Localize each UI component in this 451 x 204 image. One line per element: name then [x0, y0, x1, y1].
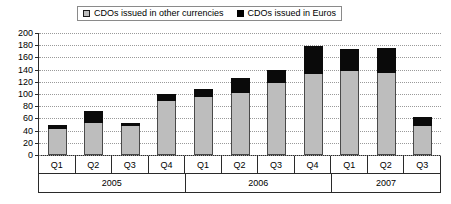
y-axis-tick-label: 160 — [18, 53, 33, 62]
legend-entry: CDOs issued in Euros — [237, 9, 337, 18]
bar-slot — [76, 33, 113, 155]
bar-segment-other-currencies — [157, 101, 176, 155]
bar-segment-other-currencies — [121, 126, 140, 155]
black-square-icon — [237, 10, 244, 17]
year-axis-labels: 200520062007 — [38, 174, 441, 193]
stacked-bar[interactable] — [84, 111, 103, 155]
bar-slot — [149, 33, 186, 155]
stacked-bar[interactable] — [48, 125, 67, 156]
bar-segment-other-currencies — [304, 74, 323, 155]
stacked-bar[interactable] — [121, 123, 140, 155]
year-label: 2006 — [185, 174, 332, 193]
quarter-label: Q3 — [257, 156, 294, 173]
bar-slot — [185, 33, 222, 155]
bar-slot — [295, 33, 332, 155]
quarter-label: Q3 — [111, 156, 148, 173]
bar-segment-other-currencies — [231, 93, 250, 155]
bar-segment-euros — [413, 117, 432, 127]
bar-segment-euros — [157, 94, 176, 101]
gray-square-icon — [83, 10, 90, 17]
quarter-label: Q4 — [148, 156, 185, 173]
bar-slot — [222, 33, 259, 155]
bar-segment-other-currencies — [340, 71, 359, 155]
bar-segment-other-currencies — [48, 129, 67, 155]
y-axis-tick-label: 140 — [18, 65, 33, 74]
legend-entry: CDOs issued in other currencies — [83, 9, 224, 18]
quarter-label: Q2 — [75, 156, 112, 173]
plot-area: 200180160140120100806040200 — [38, 33, 441, 156]
y-axis-tick-label: 0 — [28, 151, 33, 160]
bar-slot — [368, 33, 405, 155]
quarter-label: Q4 — [294, 156, 331, 173]
bar-segment-other-currencies — [84, 123, 103, 155]
bar-series-group — [39, 33, 441, 155]
legend-label: CDOs issued in Euros — [248, 9, 337, 18]
quarter-label: Q2 — [367, 156, 404, 173]
quarter-label: Q3 — [403, 156, 441, 173]
bar-slot — [404, 33, 441, 155]
quarter-label: Q2 — [221, 156, 258, 173]
bar-segment-euros — [84, 111, 103, 123]
stacked-bar[interactable] — [377, 48, 396, 155]
y-axis-tick-label: 40 — [23, 126, 33, 135]
y-axis-tick-label: 60 — [23, 114, 33, 123]
bar-slot — [258, 33, 295, 155]
bar-segment-euros — [377, 48, 396, 73]
legend-label: CDOs issued in other currencies — [94, 9, 224, 18]
bar-segment-other-currencies — [377, 73, 396, 155]
bar-slot — [112, 33, 149, 155]
chart-legend: CDOs issued in other currenciesCDOs issu… — [77, 6, 342, 21]
bar-segment-other-currencies — [194, 97, 213, 155]
stacked-bar[interactable] — [231, 78, 250, 155]
stacked-bar[interactable] — [194, 89, 213, 155]
bar-segment-euros — [194, 89, 213, 97]
quarter-axis-labels: Q1Q2Q3Q4Q1Q2Q3Q4Q1Q2Q3 — [38, 156, 441, 174]
bar-segment-other-currencies — [267, 83, 286, 155]
y-axis-tick-label: 180 — [18, 41, 33, 50]
y-axis-tick-label: 20 — [23, 138, 33, 147]
bar-segment-euros — [231, 78, 250, 93]
quarter-label: Q1 — [184, 156, 221, 173]
y-axis-tick-label: 120 — [18, 77, 33, 86]
bar-slot — [331, 33, 368, 155]
quarter-label: Q1 — [38, 156, 75, 173]
y-axis-tick-label: 200 — [18, 29, 33, 38]
quarter-label: Q1 — [330, 156, 367, 173]
bar-segment-euros — [267, 70, 286, 83]
year-label: 2007 — [331, 174, 441, 193]
stacked-bar[interactable] — [413, 117, 432, 155]
cdo-issuance-bar-chart: CDOs issued in other currenciesCDOs issu… — [0, 0, 451, 204]
bar-slot — [39, 33, 76, 155]
stacked-bar[interactable] — [267, 70, 286, 155]
bar-segment-other-currencies — [413, 126, 432, 155]
bar-segment-euros — [340, 49, 359, 71]
year-label: 2005 — [38, 174, 185, 193]
bar-segment-euros — [304, 46, 323, 73]
stacked-bar[interactable] — [304, 46, 323, 155]
stacked-bar[interactable] — [157, 94, 176, 155]
stacked-bar[interactable] — [340, 49, 359, 155]
y-axis-tick-label: 80 — [23, 102, 33, 111]
y-axis-tick-label: 100 — [18, 90, 33, 99]
